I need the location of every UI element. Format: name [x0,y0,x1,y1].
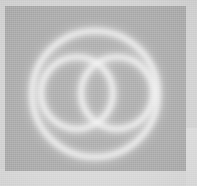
screenshot-canvas: Blurred grayscale logo: one large circle… [0,0,197,186]
bottom-light-band [0,169,197,186]
right-light-band [186,128,197,186]
gray-plate [5,6,186,171]
